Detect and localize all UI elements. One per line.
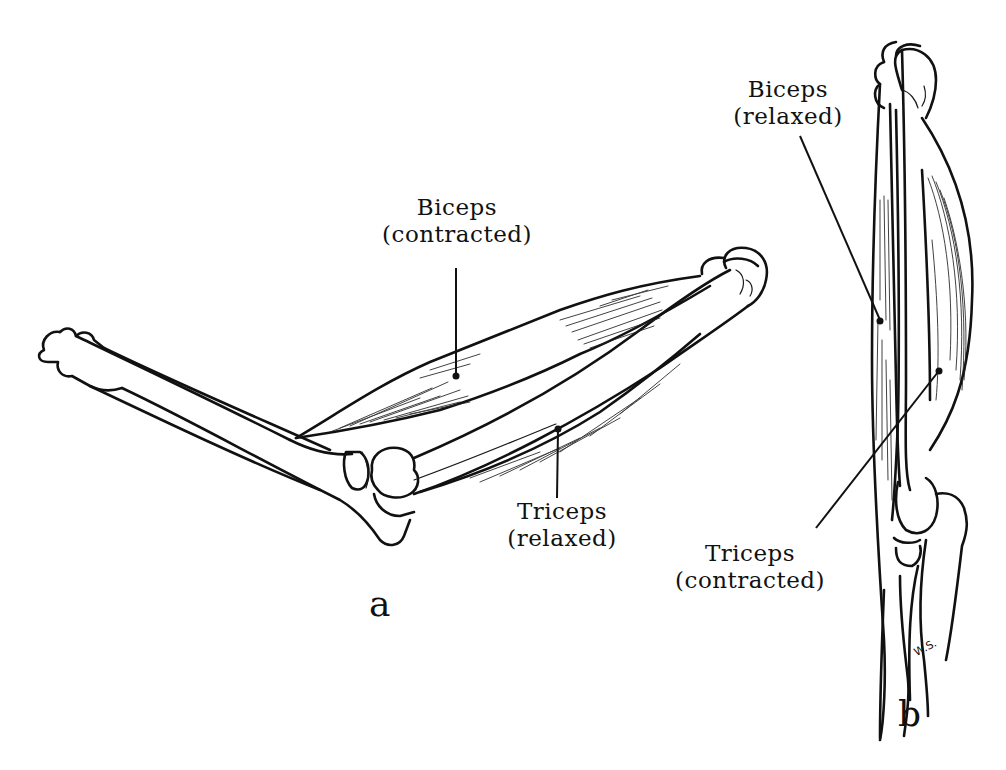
shoulder-detail [736, 270, 752, 296]
label-triceps-contracted: Triceps (contracted) [660, 540, 840, 594]
label-biceps-relaxed-name: Biceps [728, 76, 848, 103]
leader-dot-biceps-relaxed [877, 318, 884, 325]
label-biceps-contracted-name: Biceps [382, 194, 532, 221]
label-triceps-contracted-name: Triceps [660, 540, 840, 567]
triceps-contracted-inner [922, 170, 930, 400]
label-triceps-relaxed-state: (relaxed) [492, 525, 632, 552]
radius-bone-lower [76, 336, 290, 440]
leader-dot-triceps-relaxed [555, 426, 562, 433]
biceps-relaxed-fibers [876, 196, 892, 500]
radius-head-b [894, 538, 921, 566]
triceps-contracted-fibers [928, 176, 966, 400]
humerus-b-right [902, 50, 910, 490]
arm-muscles-figure: Biceps (contracted) Triceps (relaxed) a … [0, 0, 1006, 770]
shoulder-cap [702, 258, 758, 274]
humerus-condyle-b [896, 478, 937, 533]
panel-letter-b: b [898, 696, 921, 732]
biceps-contracted-outline [296, 276, 700, 438]
panel-letter-a: a [369, 586, 390, 622]
leader-triceps-relaxed [557, 430, 558, 498]
radius-head-ring [362, 452, 368, 488]
humerus-condyle [371, 448, 418, 498]
olecranon-b [936, 493, 967, 660]
leader-dot-biceps-contracted [453, 373, 460, 380]
leader-dot-triceps-contracted [936, 368, 943, 375]
label-triceps-contracted-state: (contracted) [660, 567, 840, 594]
panel-b-drawing [800, 42, 972, 740]
ulna-b [920, 540, 928, 716]
label-triceps-relaxed-name: Triceps [492, 498, 632, 525]
label-biceps-relaxed-state: (relaxed) [728, 103, 848, 130]
label-biceps-relaxed: Biceps (relaxed) [728, 76, 848, 130]
humerus-inner-line [414, 424, 556, 480]
label-triceps-relaxed: Triceps (relaxed) [492, 498, 632, 552]
leader-biceps-relaxed [800, 136, 880, 320]
label-biceps-contracted-state: (contracted) [382, 221, 532, 248]
shoulder-detail-b [902, 86, 925, 108]
arm-muscles-line-art [0, 0, 1006, 770]
panel-a-drawing [39, 248, 767, 545]
biceps-contracted-fibers [330, 286, 668, 432]
ulna-b-inner [909, 566, 918, 700]
humeral-head [724, 248, 767, 306]
forearm-distal-end [39, 332, 122, 390]
label-biceps-contracted: Biceps (contracted) [382, 194, 532, 248]
triceps-relaxed-outline [420, 334, 700, 492]
